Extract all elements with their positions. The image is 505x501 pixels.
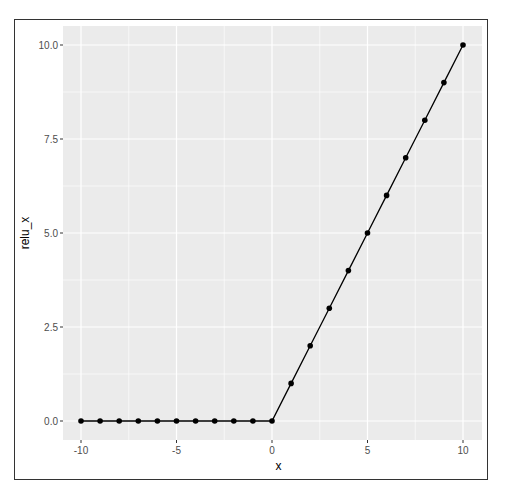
data-point — [231, 418, 237, 424]
data-point — [422, 117, 428, 123]
y-tick-label: 7.5 — [44, 134, 58, 145]
y-tick-label: 5.0 — [44, 228, 58, 239]
data-point — [136, 418, 142, 424]
x-tick-label: -10 — [74, 445, 89, 456]
data-point — [384, 193, 390, 199]
y-tick-label: 2.5 — [44, 322, 58, 333]
data-point — [403, 155, 409, 161]
x-tick-label: 10 — [457, 445, 469, 456]
data-point — [288, 381, 294, 387]
data-point — [174, 418, 180, 424]
x-tick-label: 0 — [269, 445, 275, 456]
data-point — [193, 418, 199, 424]
y-tick-label: 10.0 — [39, 40, 59, 51]
data-point — [307, 343, 313, 349]
x-axis-title: x — [276, 459, 282, 473]
data-point — [155, 418, 161, 424]
y-axis: 0.02.55.07.510.0 — [39, 40, 63, 427]
data-point — [460, 42, 466, 48]
data-point — [116, 418, 122, 424]
data-point — [365, 230, 371, 236]
data-point — [78, 418, 84, 424]
data-point — [97, 418, 103, 424]
data-point — [346, 268, 352, 274]
x-tick-label: 5 — [365, 445, 371, 456]
y-axis-title: relu_x — [18, 217, 32, 250]
chart: -10-50510 0.02.55.07.510.0 x relu_x — [0, 0, 505, 501]
data-point — [441, 80, 447, 86]
y-tick-label: 0.0 — [44, 416, 58, 427]
x-axis: -10-50510 — [74, 440, 469, 456]
x-tick-label: -5 — [172, 445, 181, 456]
data-point — [250, 418, 256, 424]
data-point — [212, 418, 218, 424]
data-point — [327, 305, 333, 311]
data-point — [269, 418, 275, 424]
